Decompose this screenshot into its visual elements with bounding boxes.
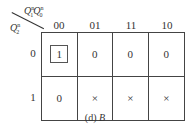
caption-variable: B [99,112,105,123]
row-header-0: 0 [28,47,38,59]
grouped-cell-box: 1 [50,45,68,63]
cell-0-00: 1 [42,33,78,77]
row-variable-label: Qn2 [10,20,19,37]
column-header-10: 10 [149,19,185,31]
row-header-1: 1 [28,91,38,103]
kmap-grid: 1 0 0 0 0 × × × [41,32,185,121]
cell-0-11: 0 [113,33,149,77]
figure-caption: (d) B [0,112,190,123]
column-header-11: 11 [113,19,149,31]
column-header-01: 01 [77,19,113,31]
cell-0-01: 0 [78,33,114,77]
cell-0-10: 0 [149,33,185,77]
cell-value: 1 [57,48,63,60]
column-header-00: 00 [41,19,77,31]
column-variables-label: Qn1Qn0 [24,3,42,20]
caption-prefix: (d) [85,112,97,123]
